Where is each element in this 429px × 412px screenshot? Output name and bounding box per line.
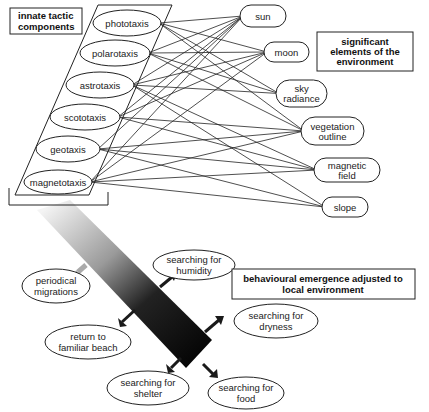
innate-label: innate tactic components xyxy=(10,8,82,34)
behaviour-node-food: searching forfood xyxy=(208,377,284,409)
element-node-sun: sun xyxy=(240,5,286,27)
behaviour-node-periodical: periodicalmigrations xyxy=(22,269,90,303)
element-node-vegetation: vegetationoutline xyxy=(301,117,364,145)
behaviour-node-shelter: searching forshelter xyxy=(107,371,189,405)
taxis-node-scototaxis: scototaxis xyxy=(50,104,120,130)
element-node-slope: slope xyxy=(322,197,368,217)
taxis-label: astrotaxis xyxy=(80,80,121,91)
tactic-diagram: phototaxispolarotaxisastrotaxisscototaxi… xyxy=(0,0,429,412)
taxis-label: polarotaxis xyxy=(92,48,138,59)
taxis-node-polarotaxis: polarotaxis xyxy=(80,40,150,66)
behaviour-label: searching for xyxy=(167,254,222,265)
connection-polarotaxis-moon xyxy=(148,52,267,53)
behaviour-label: searching for xyxy=(219,382,274,393)
innate-label-line1: innate tactic xyxy=(18,10,73,21)
element-label: slope xyxy=(334,202,357,213)
element-node-moon: moon xyxy=(264,42,309,62)
behaviour-label: migrations xyxy=(34,286,78,297)
taxis-node-astrotaxis: astrotaxis xyxy=(66,72,134,98)
behaviour-label: humidity xyxy=(176,265,212,276)
innate-label-line2: components xyxy=(18,21,74,32)
behaviour-label-line2: local environment xyxy=(282,284,364,295)
behaviour-label: dryness xyxy=(259,321,293,332)
connection-phototaxis-vegetation xyxy=(159,23,304,131)
behaviour-node-return: return tofamiliar beach xyxy=(45,325,131,359)
behaviour-label: food xyxy=(237,393,256,404)
connection-scototaxis-vegetation xyxy=(118,117,304,131)
behaviour-label: shelter xyxy=(134,388,163,399)
connection-magnetotaxis-slope xyxy=(90,182,325,207)
behaviour-label: periodical xyxy=(36,275,77,286)
behaviour-label: searching for xyxy=(121,377,176,388)
behaviour-node-humidity: searching forhumidity xyxy=(153,250,235,280)
behaviour-label: familiar beach xyxy=(58,342,117,353)
behaviour-label: behavioural emergence adjusted to local … xyxy=(232,269,415,299)
connection-phototaxis-sun xyxy=(159,16,243,23)
taxis-label: magnetotaxis xyxy=(30,177,87,188)
element-label: outline xyxy=(319,131,347,142)
taxis-label: geotaxis xyxy=(50,144,86,155)
element-label: field xyxy=(338,170,355,181)
behaviour-label-line1: behavioural emergence adjusted to xyxy=(243,273,403,284)
element-label: moon xyxy=(275,47,299,58)
element-label: sun xyxy=(255,11,270,22)
taxis-node-magnetotaxis: magnetotaxis xyxy=(24,170,92,194)
behaviour-node-dryness: searching fordryness xyxy=(234,304,318,338)
connection-astrotaxis-moon xyxy=(132,52,267,85)
behaviour-label: return to xyxy=(70,331,105,342)
taxis-node-phototaxis: phototaxis xyxy=(93,10,161,36)
element-node-sky: skyradiance xyxy=(276,80,327,107)
behaviour-label: searching for xyxy=(249,310,304,321)
element-label: radiance xyxy=(283,93,319,104)
element-node-magnetic: magneticfield xyxy=(314,158,380,182)
connection-phototaxis-sky xyxy=(159,23,279,94)
taxis-label: phototaxis xyxy=(105,18,149,29)
environment-label-line3: environment xyxy=(336,56,394,67)
taxis-label: scototaxis xyxy=(64,112,106,123)
environment-label: significant elements of the environment xyxy=(317,32,413,71)
taxis-node-geotaxis: geotaxis xyxy=(36,136,100,162)
